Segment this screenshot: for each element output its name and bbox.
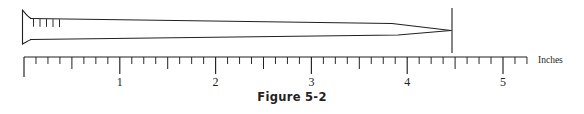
ruler-number-labels: 12345: [117, 75, 506, 89]
nail-hatch-marks: [34, 19, 60, 26]
ruler: [24, 57, 527, 77]
ruler-number-label: 3: [308, 75, 314, 89]
nail-head-flare-top: [23, 10, 32, 19]
figure-caption: Figure 5-2: [0, 90, 584, 104]
figure-root: 12345 Inches Figure 5-2: [0, 0, 584, 114]
ruler-number-label: 4: [404, 75, 410, 89]
ruler-tick-marks: [24, 57, 527, 77]
nail-shank-bottom-edge: [31, 31, 452, 40]
ruler-number-label: 2: [213, 75, 219, 89]
ruler-number-label: 5: [500, 75, 506, 89]
nail-head-flare-bottom: [23, 40, 32, 45]
ruler-number-label: 1: [117, 75, 123, 89]
ruler-unit-label: Inches: [538, 55, 563, 65]
nail-shank-top-edge: [31, 19, 452, 31]
nail-object: [23, 10, 452, 44]
